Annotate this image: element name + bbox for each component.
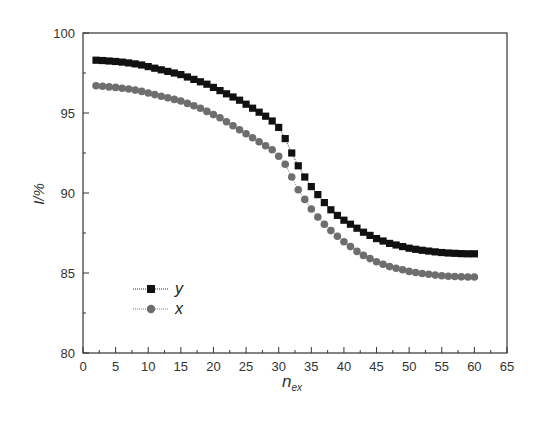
square-marker bbox=[256, 109, 263, 116]
circle-marker bbox=[210, 111, 218, 119]
square-marker bbox=[353, 225, 360, 232]
legend-circle-marker bbox=[147, 305, 155, 313]
circle-marker bbox=[327, 227, 335, 235]
circle-marker bbox=[360, 252, 368, 260]
x-tick-label: 15 bbox=[174, 359, 188, 374]
square-marker bbox=[132, 60, 139, 67]
y-tick-label: 100 bbox=[53, 26, 75, 41]
y-axis-label: I/% bbox=[30, 183, 47, 205]
circle-marker bbox=[177, 97, 185, 105]
circle-marker bbox=[223, 118, 231, 126]
square-marker bbox=[399, 243, 406, 250]
square-marker bbox=[112, 58, 119, 65]
circle-marker bbox=[203, 108, 211, 116]
square-marker bbox=[125, 59, 132, 66]
circle-marker bbox=[464, 273, 472, 281]
square-marker bbox=[471, 250, 478, 257]
square-marker bbox=[314, 191, 321, 198]
circle-marker bbox=[314, 213, 322, 221]
square-marker bbox=[347, 221, 354, 228]
square-marker bbox=[327, 206, 334, 213]
circle-marker bbox=[157, 92, 165, 100]
square-marker bbox=[242, 101, 249, 108]
legend-item-y: y bbox=[133, 280, 184, 297]
square-marker bbox=[464, 250, 471, 257]
square-marker bbox=[412, 246, 419, 253]
circle-marker bbox=[347, 243, 355, 251]
circle-marker bbox=[171, 96, 179, 104]
circle-marker bbox=[125, 85, 133, 93]
x-tick-label: 65 bbox=[500, 359, 514, 374]
circle-marker bbox=[458, 273, 466, 281]
circle-marker bbox=[249, 134, 257, 142]
square-marker bbox=[373, 235, 380, 242]
x-tick-label: 35 bbox=[304, 359, 318, 374]
circle-marker bbox=[451, 273, 459, 281]
legend-square-marker bbox=[147, 285, 155, 293]
circle-marker bbox=[471, 273, 479, 281]
circle-marker bbox=[197, 104, 205, 112]
circle-marker bbox=[268, 146, 276, 154]
circle-marker bbox=[236, 126, 244, 134]
circle-marker bbox=[340, 238, 348, 246]
square-marker bbox=[262, 113, 269, 120]
circle-marker bbox=[131, 86, 139, 94]
square-marker bbox=[458, 250, 465, 257]
x-tick-label: 25 bbox=[239, 359, 253, 374]
x-tick-label: 60 bbox=[467, 359, 481, 374]
circle-marker bbox=[92, 82, 100, 90]
square-marker bbox=[203, 81, 210, 88]
y-tick-label: 95 bbox=[61, 106, 75, 121]
circle-marker bbox=[294, 186, 302, 194]
square-marker bbox=[366, 232, 373, 239]
circle-marker bbox=[190, 102, 198, 110]
circle-marker bbox=[379, 260, 387, 268]
circle-marker bbox=[99, 82, 107, 90]
square-marker bbox=[92, 57, 99, 64]
series-line bbox=[96, 60, 474, 254]
circle-marker bbox=[184, 100, 192, 108]
circle-marker bbox=[321, 220, 329, 228]
circle-marker bbox=[334, 232, 342, 240]
square-marker bbox=[340, 217, 347, 224]
square-marker bbox=[236, 97, 243, 104]
square-marker bbox=[451, 250, 458, 257]
plot-border bbox=[83, 33, 507, 353]
x-tick-label: 55 bbox=[435, 359, 449, 374]
legend-item-x: x bbox=[133, 300, 184, 317]
circle-marker bbox=[399, 266, 407, 274]
circle-marker bbox=[425, 270, 433, 278]
square-marker bbox=[210, 84, 217, 91]
circle-marker bbox=[431, 271, 439, 279]
square-marker bbox=[360, 229, 367, 236]
x-tick-label: 50 bbox=[402, 359, 416, 374]
square-marker bbox=[334, 212, 341, 219]
circle-marker bbox=[366, 255, 374, 263]
y-axis: 80859095100 bbox=[53, 26, 89, 361]
square-marker bbox=[308, 183, 315, 190]
y-tick-label: 80 bbox=[61, 346, 75, 361]
circle-marker bbox=[138, 88, 146, 96]
square-marker bbox=[216, 87, 223, 94]
x-axis-label-main: n bbox=[282, 372, 291, 391]
square-marker bbox=[158, 66, 165, 73]
x-tick-label: 40 bbox=[337, 359, 351, 374]
square-marker bbox=[379, 237, 386, 244]
square-marker bbox=[145, 63, 152, 70]
square-marker bbox=[138, 61, 145, 68]
square-marker bbox=[229, 93, 236, 100]
legend: yx bbox=[133, 280, 184, 317]
square-marker bbox=[164, 68, 171, 75]
square-marker bbox=[171, 69, 178, 76]
x-tick-label: 10 bbox=[141, 359, 155, 374]
circle-marker bbox=[438, 272, 446, 280]
square-marker bbox=[438, 249, 445, 256]
square-marker bbox=[119, 59, 126, 66]
square-marker bbox=[223, 90, 230, 97]
circle-marker bbox=[288, 173, 296, 181]
data-series bbox=[92, 57, 478, 281]
x-tick-label: 5 bbox=[112, 359, 119, 374]
circle-marker bbox=[444, 272, 452, 280]
circle-marker bbox=[151, 91, 159, 99]
square-marker bbox=[445, 249, 452, 256]
